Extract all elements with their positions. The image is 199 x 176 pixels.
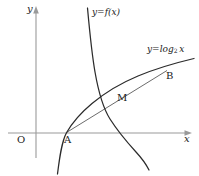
x-axis-label: x <box>184 134 190 144</box>
y-axis-label: y <box>27 4 33 14</box>
log-curve-label-prefix: y=log <box>147 44 174 54</box>
origin-label: O <box>17 135 25 145</box>
f-curve <box>88 8 150 170</box>
point-b-label: B <box>166 71 173 81</box>
log-curve <box>58 59 195 175</box>
log-curve-label: y=log2 x <box>147 45 184 54</box>
point-m-label: M <box>117 93 127 103</box>
log-curve-label-base: 2 <box>174 47 178 54</box>
log-curve-label-arg: x <box>179 44 184 54</box>
plot-canvas <box>0 0 199 176</box>
math-figure: y x O y=f(x) y=log2 x A B M <box>0 0 199 176</box>
y-axis-arrowhead <box>33 6 39 14</box>
f-curve-label: y=f(x) <box>92 8 120 17</box>
point-a-label: A <box>64 135 71 145</box>
